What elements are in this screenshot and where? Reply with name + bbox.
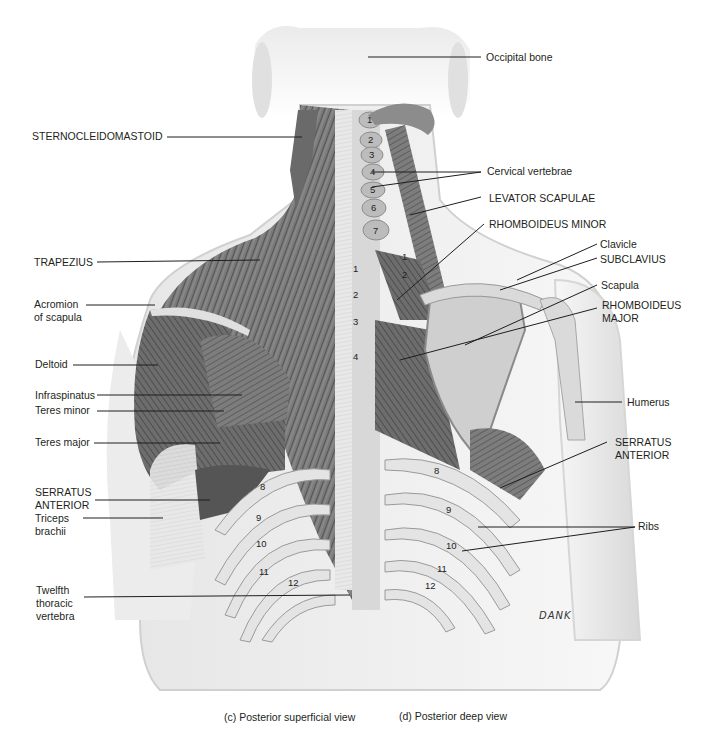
svg-text:5: 5	[370, 184, 375, 195]
label-twelfth-thoracic-vertebra: Twelfth thoracic vertebra	[36, 584, 75, 623]
svg-text:1: 1	[402, 251, 407, 262]
label-rhomboideus-minor: RHOMBOIDEUS MINOR	[489, 218, 606, 231]
svg-text:10: 10	[256, 538, 267, 549]
svg-text:2: 2	[402, 269, 407, 280]
label-humerus: Humerus	[627, 396, 670, 409]
label-acromion: Acromion of scapula	[34, 298, 82, 324]
svg-text:9: 9	[256, 512, 261, 523]
svg-text:11: 11	[259, 566, 269, 577]
label-subclavius: SUBCLAVIUS	[600, 253, 666, 266]
svg-text:12: 12	[288, 577, 299, 588]
label-clavicle: Clavicle	[600, 238, 637, 251]
svg-text:11: 11	[437, 563, 447, 574]
caption-deep-view: (d) Posterior deep view	[399, 710, 507, 722]
svg-text:8: 8	[434, 465, 439, 476]
label-serratus-anterior-right: SERRATUS ANTERIOR	[615, 436, 671, 462]
svg-text:3: 3	[369, 149, 374, 160]
label-triceps-brachii: Triceps brachii	[35, 512, 69, 538]
svg-text:6: 6	[371, 202, 376, 213]
artist-signature: DANK	[539, 610, 572, 621]
label-cervical-vertebrae: Cervical vertebrae	[487, 165, 572, 178]
anatomy-figure: 1 2 3 4 5 6 7 1 2 3 4 1 2 8 9 10 11 12 8…	[0, 0, 707, 747]
svg-text:3: 3	[353, 316, 358, 327]
svg-text:7: 7	[373, 225, 378, 236]
label-trapezius: TRAPEZIUS	[34, 256, 93, 269]
svg-text:8: 8	[260, 481, 265, 492]
label-serratus-anterior-left: SERRATUS ANTERIOR	[35, 486, 91, 512]
label-infraspinatus: Infraspinatus	[35, 389, 95, 402]
svg-text:2: 2	[353, 289, 358, 300]
label-sternocleidomastoid: STERNOCLEIDOMASTOID	[32, 130, 163, 143]
svg-text:10: 10	[446, 540, 457, 551]
svg-text:4: 4	[353, 351, 358, 362]
label-teres-major: Teres major	[35, 436, 90, 449]
label-ribs: Ribs	[638, 520, 659, 533]
label-rhomboideus-major: RHOMBOIDEUS MAJOR	[602, 299, 681, 325]
anatomy-illustration: 1 2 3 4 5 6 7 1 2 3 4 1 2 8 9 10 11 12 8…	[0, 0, 707, 747]
label-teres-minor: Teres minor	[35, 404, 90, 417]
label-levator-scapulae: LEVATOR SCAPULAE	[489, 192, 595, 205]
label-deltoid: Deltoid	[35, 358, 68, 371]
svg-text:1: 1	[367, 114, 372, 125]
svg-text:2: 2	[368, 134, 373, 145]
caption-superficial-view: (c) Posterior superficial view	[224, 711, 355, 723]
svg-text:9: 9	[446, 504, 451, 515]
label-occipital-bone: Occipital bone	[486, 51, 553, 64]
svg-text:1: 1	[353, 263, 358, 274]
svg-text:12: 12	[425, 580, 436, 591]
label-scapula: Scapula	[601, 279, 639, 292]
